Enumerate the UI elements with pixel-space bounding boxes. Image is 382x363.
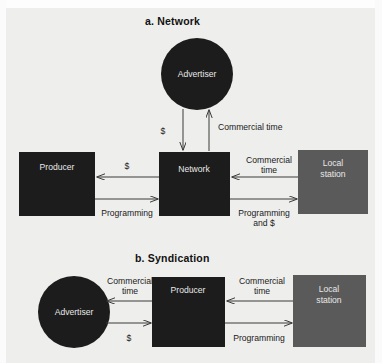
panel-syndication-title: b. Syndication <box>135 252 210 264</box>
node-network-network[interactable]: Network <box>159 152 230 216</box>
producer-label-b: Producer <box>171 285 206 295</box>
local-station-label-b-line2: station <box>316 295 342 305</box>
diagram-svg: a. Network Advertiser Producer Network L… <box>0 0 382 363</box>
node-advertiser-syndication[interactable]: Advertiser <box>38 276 110 348</box>
edge-advertiser-to-network-label: $ <box>161 126 166 136</box>
edge-network-to-localstation-label-line1: Programming <box>238 208 290 218</box>
node-local-station-network[interactable]: Local station <box>298 150 368 214</box>
advertiser-label: Advertiser <box>178 69 217 79</box>
local-station-label-line1: Local <box>323 158 344 168</box>
panel-network-title: a. Network <box>145 15 200 27</box>
edge-localstation-to-network-label-line2: time <box>261 165 277 175</box>
node-producer-syndication[interactable]: Producer <box>152 277 225 347</box>
edge-localstation-to-producer-label-line1: Commercial <box>239 276 285 286</box>
node-advertiser-network[interactable]: Advertiser <box>161 38 233 110</box>
producer-label: Producer <box>40 162 75 172</box>
edge-localstation-to-network-label-line1: Commercial <box>246 155 292 165</box>
panel-network: a. Network Advertiser Producer Network L… <box>19 15 368 228</box>
edge-network-to-localstation-label-line2: and $ <box>253 218 275 228</box>
edge-network-to-advertiser-label: Commercial time <box>218 122 283 132</box>
local-station-label-b-line1: Local <box>319 284 340 294</box>
advertiser-label-b: Advertiser <box>55 307 94 317</box>
figure-container: a. Network Advertiser Producer Network L… <box>0 0 382 363</box>
edge-producer-to-network-label: Programming <box>101 208 153 218</box>
edge-producer-to-advertiser-label-line2: time <box>122 286 138 296</box>
edge-advertiser-to-producer-label: $ <box>127 333 132 343</box>
local-station-label-line2: station <box>320 169 346 179</box>
network-label: Network <box>178 164 210 174</box>
node-producer-network[interactable]: Producer <box>19 152 95 216</box>
edge-producer-to-localstation-label: Programming <box>233 333 285 343</box>
edge-producer-to-advertiser-label-line1: Commercial <box>107 276 153 286</box>
node-local-station-syndication[interactable]: Local station <box>293 275 366 347</box>
panel-syndication: b. Syndication Advertiser Producer Local… <box>38 252 366 348</box>
network-box-shape <box>159 152 230 216</box>
edge-network-to-producer-label: $ <box>125 161 130 171</box>
edge-localstation-to-producer-label-line2: time <box>254 286 270 296</box>
